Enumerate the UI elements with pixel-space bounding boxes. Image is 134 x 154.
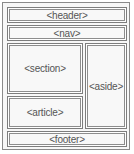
- header-label: <header>: [46, 10, 87, 21]
- article-label: <article>: [27, 107, 64, 118]
- footer-label: <footer>: [49, 134, 85, 145]
- section-label: <section>: [24, 63, 66, 74]
- nav-block: <nav>: [7, 25, 127, 41]
- header-block: <header>: [7, 7, 127, 23]
- footer-block: <footer>: [7, 131, 127, 147]
- article-block: <article>: [7, 96, 83, 129]
- aside-label: <aside>: [89, 81, 123, 92]
- nav-label: <nav>: [54, 28, 81, 39]
- aside-block: <aside>: [85, 43, 127, 129]
- section-block: <section>: [7, 43, 83, 94]
